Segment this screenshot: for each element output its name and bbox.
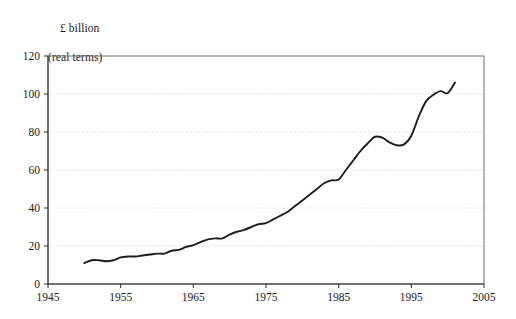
y-tick-label: 120: [23, 50, 41, 62]
x-tick-label: 1975: [255, 291, 278, 303]
y-tick-label: 40: [29, 202, 41, 214]
chart-container: £ billion (real terms) 020406080100120 1…: [0, 0, 516, 319]
y-tick-label: 100: [23, 88, 41, 100]
x-tick-label: 1995: [400, 291, 423, 303]
y-tick-label: 80: [29, 126, 41, 138]
x-tick-label: 1945: [37, 291, 60, 303]
series-line: [84, 83, 455, 264]
data-series-group: [84, 83, 455, 264]
x-tick-label: 1985: [327, 291, 350, 303]
y-tick-labels-group: 020406080100120: [23, 50, 41, 290]
x-tick-labels-group: 1945195519651975198519952005: [37, 291, 496, 303]
y-tick-label: 60: [29, 164, 41, 176]
y-tick-label: 0: [34, 278, 40, 290]
y-tick-label: 20: [29, 240, 41, 252]
x-tick-label: 1965: [182, 291, 205, 303]
tickmarks-group: [44, 56, 484, 288]
line-chart-plot: 020406080100120 194519551965197519851995…: [0, 0, 516, 319]
x-tick-label: 1955: [109, 291, 132, 303]
x-tick-label: 2005: [473, 291, 496, 303]
